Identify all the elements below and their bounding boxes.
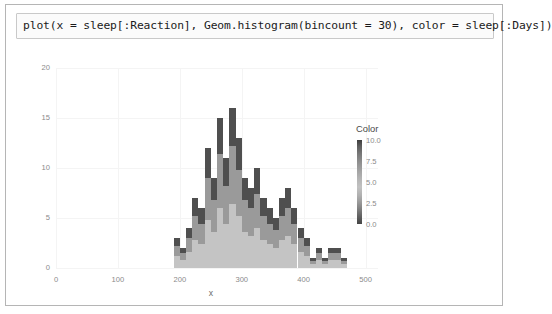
legend-title: Color	[356, 123, 378, 134]
bar-segment	[205, 148, 211, 178]
notebook-panel: plot(x = sleep[:Reaction], Geom.histogra…	[5, 4, 503, 306]
bar-segment	[341, 264, 347, 268]
bar-segment	[254, 168, 260, 194]
bar-segment	[316, 248, 322, 253]
y-tick-label: 20	[20, 64, 50, 72]
bar-segment	[291, 208, 297, 224]
code-text: plot(x = sleep[:Reaction], Geom.histogra…	[23, 19, 552, 32]
y-tick-label: 15	[20, 114, 50, 122]
bar-segment	[304, 246, 310, 256]
x-tick-label: 500	[346, 276, 386, 284]
bar-segment	[174, 238, 180, 246]
legend-tick-label: 0.0	[366, 221, 377, 229]
bar-segment	[304, 238, 310, 246]
bar-segment	[236, 138, 242, 170]
color-legend: Color 10.07.55.02.50.0	[356, 123, 436, 238]
x-tick-label: 400	[284, 276, 324, 284]
bar-segment	[298, 228, 304, 238]
legend-tick-label: 2.5	[366, 200, 377, 208]
legend-tick-label: 10.0	[366, 137, 381, 145]
x-tick-label: 0	[36, 276, 76, 284]
color-gradient-bar	[357, 140, 362, 224]
code-input-cell[interactable]: plot(x = sleep[:Reaction], Geom.histogra…	[16, 13, 494, 39]
bar-segment	[341, 261, 347, 264]
plot-axes-area	[56, 68, 378, 268]
x-tick-label: 200	[160, 276, 200, 284]
legend-tick-label: 7.5	[366, 158, 377, 166]
y-tick-label: 0	[20, 264, 50, 272]
bar-segment	[285, 188, 291, 208]
legend-tick-label: 5.0	[366, 179, 377, 187]
bar-segment	[341, 258, 347, 261]
bar-segment	[217, 118, 223, 154]
bar-column	[341, 258, 347, 268]
bar-segment	[335, 248, 341, 253]
gridline-horizontal	[56, 268, 378, 269]
y-tick-label: 10	[20, 164, 50, 172]
histogram-bars	[56, 68, 378, 268]
plot-figure: 05101520 0100200300400500 x Color 10.07.…	[16, 45, 494, 303]
y-tick-label: 5	[20, 214, 50, 222]
x-tick-label: 100	[98, 276, 138, 284]
x-tick-label: 300	[222, 276, 262, 284]
x-axis-label: x	[181, 288, 241, 298]
